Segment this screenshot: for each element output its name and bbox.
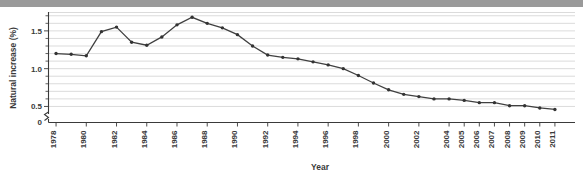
data-point — [417, 95, 420, 98]
data-point — [190, 16, 193, 19]
data-point — [387, 88, 390, 91]
data-point — [54, 52, 57, 55]
x-axis-tick-label: 2011 — [548, 130, 557, 148]
data-point — [523, 104, 526, 107]
data-point — [175, 23, 178, 26]
data-point — [115, 25, 118, 28]
data-point — [463, 99, 466, 102]
data-point — [508, 104, 511, 107]
horizontal-gridlines — [49, 13, 576, 107]
x-axis-tick-label: 2005 — [457, 130, 466, 148]
data-point — [342, 67, 345, 70]
x-axis-tick-label: 1982 — [110, 130, 119, 148]
x-axis-tick-label: 2006 — [472, 130, 481, 148]
data-point — [432, 97, 435, 100]
chart-figure: 00.51.01.5 19781980198219841986198819901… — [0, 0, 583, 179]
data-point — [221, 26, 224, 29]
data-point — [160, 35, 163, 38]
y-axis-title: Natural increase (%) — [8, 27, 18, 109]
x-axis-tick-label: 2000 — [382, 130, 391, 148]
y-axis-tick-label: 1.0 — [31, 65, 43, 74]
data-point — [281, 56, 284, 59]
data-point — [266, 53, 269, 56]
data-point — [206, 22, 209, 25]
data-point — [296, 57, 299, 60]
natural-increase-line-chart: 00.51.01.5 19781980198219841986198819901… — [0, 0, 583, 179]
y-axis-ticks — [44, 16, 49, 107]
data-point — [372, 81, 375, 84]
x-axis-tick-label: 1978 — [49, 130, 58, 148]
y-axis-tick-label: 0 — [38, 118, 43, 127]
data-point — [251, 44, 254, 47]
x-axis-tick-label: 2008 — [503, 130, 512, 148]
x-axis-tick-label: 1994 — [291, 130, 300, 148]
x-axis-tick-label: 1996 — [321, 130, 330, 148]
x-axis-tick-labels: 1978198019821984198619881990199219941996… — [49, 130, 557, 148]
x-axis-tick-label: 2007 — [487, 130, 496, 148]
data-series-markers — [54, 16, 556, 112]
x-axis-tick-label: 2002 — [412, 130, 421, 148]
x-axis-tick-label: 1998 — [351, 130, 360, 148]
x-axis-tick-label: 2010 — [533, 130, 542, 148]
data-point — [538, 106, 541, 109]
data-point — [145, 44, 148, 47]
x-axis-tick-label: 1992 — [261, 130, 270, 148]
y-axis-tick-label: 0.5 — [31, 102, 43, 111]
x-axis-tick-label: 1990 — [230, 130, 239, 148]
x-axis-tick-label: 1984 — [140, 130, 149, 148]
data-point — [402, 93, 405, 96]
data-point — [326, 63, 329, 66]
data-point — [357, 74, 360, 77]
x-axis-tick-label: 1988 — [200, 130, 209, 148]
data-point — [85, 54, 88, 57]
data-point — [553, 108, 556, 111]
data-point — [69, 53, 72, 56]
data-point — [311, 60, 314, 63]
x-axis-ticks — [56, 123, 555, 127]
x-axis-tick-label: 1986 — [170, 130, 179, 148]
data-point — [493, 101, 496, 104]
data-point — [478, 101, 481, 104]
x-axis-tick-label: 2004 — [442, 130, 451, 148]
x-axis-tick-label: 2009 — [518, 130, 527, 148]
data-point — [236, 33, 239, 36]
data-point — [130, 41, 133, 44]
y-axis-break-icon — [45, 112, 49, 121]
data-point — [100, 30, 103, 33]
x-axis-title: Year — [311, 162, 330, 172]
data-point — [447, 97, 450, 100]
y-axis-tick-labels: 00.51.01.5 — [31, 27, 43, 127]
y-axis-tick-label: 1.5 — [31, 27, 43, 36]
x-axis-tick-label: 1980 — [79, 130, 88, 148]
